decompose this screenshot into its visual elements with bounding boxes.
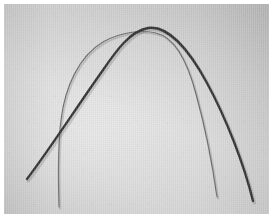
photograph-plate <box>4 4 269 214</box>
plate-film-grain <box>4 4 269 214</box>
figure-root <box>0 0 273 223</box>
